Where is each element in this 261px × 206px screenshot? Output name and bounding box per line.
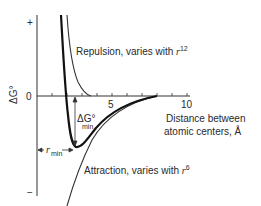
dg-min-subscript: min [82,123,93,130]
y-minus-label: − [27,187,33,198]
x-axis-label-line1: Distance between [166,113,246,124]
energy-chart: + 0 − ΔG° 5 10 Distance between atomic c… [0,0,261,206]
x-tick-5: 5 [108,99,114,110]
r-min-subscript: min [51,150,62,157]
y-plus-label: + [27,17,33,28]
attraction-label: Attraction, varies with r6 [84,164,190,176]
repulsion-label: Repulsion, varies with r12 [76,45,188,57]
x-axis-label-line2: atomic centers, Å [164,125,242,137]
y-zero-label: 0 [26,91,32,102]
x-tick-10: 10 [181,99,193,110]
y-axis-label: ΔG° [8,86,19,104]
r-min-label: r [46,144,50,155]
